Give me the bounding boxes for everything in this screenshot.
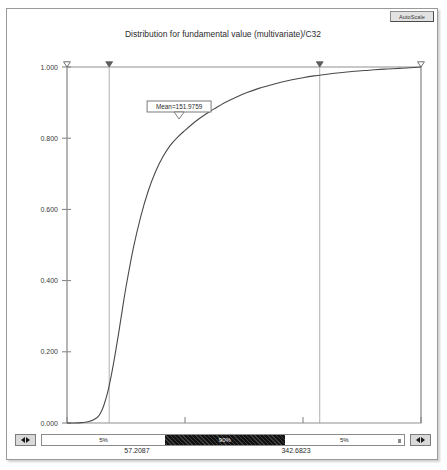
slider-resize-nub[interactable] xyxy=(398,439,401,443)
left-arrow-icon xyxy=(416,437,420,443)
range-handle-left-inner-triangle-icon[interactable] xyxy=(106,62,113,67)
right-arrow-icon xyxy=(26,437,30,443)
right-arrow-icon xyxy=(421,437,425,443)
y-tick-label: 0.400 xyxy=(40,277,58,284)
y-tick-label: 0.600 xyxy=(40,206,58,213)
y-tick-label: 1.000 xyxy=(40,64,58,71)
slider-high-value: 342.6823 xyxy=(281,447,310,454)
slider-track[interactable]: 5% 90% 5% xyxy=(41,434,405,446)
left-arrow-icon xyxy=(21,437,25,443)
slider-value-row: 57.2087 342.6823 xyxy=(41,447,405,457)
slider-segment-central-label: 90% xyxy=(219,437,231,443)
range-handle-right-inner-triangle-icon[interactable] xyxy=(316,62,323,67)
slider-segment-upper-label: 5% xyxy=(340,437,349,443)
mean-label-text: Mean=151.9759 xyxy=(156,103,203,110)
chart-panel: Distribution for fundamental value (mult… xyxy=(15,23,431,429)
y-tick-label: 0.800 xyxy=(40,135,58,142)
y-tick-label: 0.000 xyxy=(40,420,58,427)
nudge-right-button[interactable] xyxy=(410,434,431,446)
range-handle-right-outer-triangle-icon[interactable] xyxy=(418,62,425,67)
chart-window: AutoScale Distribution for fundamental v… xyxy=(6,8,438,460)
slider-segment-lower-tail[interactable]: 5% xyxy=(42,435,165,445)
slider-segment-upper-tail[interactable]: 5% xyxy=(285,435,404,445)
autoscale-button[interactable]: AutoScale xyxy=(390,11,434,22)
plot-frame xyxy=(67,67,421,423)
range-marker-handles[interactable] xyxy=(64,62,425,67)
nudge-left-button[interactable] xyxy=(15,434,36,446)
percentile-slider: 5% 90% 5% 57.2087 342.6823 xyxy=(15,433,431,457)
slider-low-value: 57.2087 xyxy=(124,447,149,454)
cdf-plot: 0.0000.2000.4000.6000.8001.000 016032048… xyxy=(15,23,431,429)
slider-segment-central-band[interactable]: 90% xyxy=(165,435,284,445)
y-tick-label: 0.200 xyxy=(40,348,58,355)
y-axis: 0.0000.2000.4000.6000.8001.000 xyxy=(40,64,71,427)
range-handle-left-outer-triangle-icon[interactable] xyxy=(64,62,71,67)
